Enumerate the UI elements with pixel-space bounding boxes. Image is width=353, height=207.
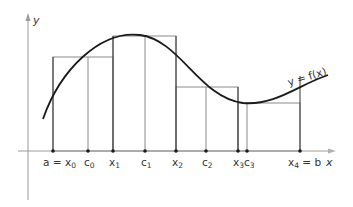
dot-c2: [204, 149, 208, 153]
label-x1: x1: [109, 156, 120, 170]
dot-c1: [143, 149, 147, 153]
y-axis: y: [26, 13, 41, 200]
label-x0-main: a = x: [43, 156, 71, 168]
label-x4: x4 = b: [288, 156, 321, 170]
label-x0-sub: 0: [71, 161, 76, 170]
label-x2: x2: [172, 156, 183, 170]
label-c2-sub: 2: [208, 161, 213, 170]
label-x1-sub: 1: [115, 161, 120, 170]
x-axis-arrow-icon: [328, 149, 336, 154]
label-c1-sub: 1: [147, 161, 152, 170]
label-c0-sub: 0: [90, 161, 95, 170]
tick-labels: a = x0 c0 x1 c1 x2 c2 x3 c3 x4 = b: [43, 156, 321, 170]
dot-x2: [174, 149, 178, 153]
y-axis-label: y: [32, 14, 40, 27]
x-axis-label: x: [325, 156, 333, 169]
riemann-sum-diagram: y x y = f(x): [0, 0, 353, 207]
label-c2: c2: [202, 156, 213, 170]
label-x4-suffix: = b: [299, 156, 321, 168]
label-x3: x3: [233, 156, 244, 170]
dot-x4: [298, 149, 302, 153]
label-c1: c1: [141, 156, 152, 170]
rectangle-1: [53, 57, 113, 151]
y-axis-arrow-icon: [26, 13, 31, 21]
label-c3-sub: 3: [250, 161, 255, 170]
label-x2-sub: 2: [178, 161, 183, 170]
dot-x1: [111, 149, 115, 153]
label-x0: a = x0: [43, 156, 76, 170]
rectangle-3: [176, 87, 238, 151]
dot-c3: [245, 149, 249, 153]
label-c0: c0: [84, 156, 95, 170]
dot-c0: [86, 149, 90, 153]
label-c3: c3: [244, 156, 255, 170]
dot-x0: [51, 149, 55, 153]
dot-x3: [236, 149, 240, 153]
partition-lines: [53, 36, 300, 151]
